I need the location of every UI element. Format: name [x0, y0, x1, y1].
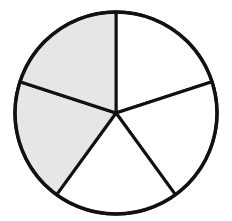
- fraction-pie-chart: [0, 0, 232, 221]
